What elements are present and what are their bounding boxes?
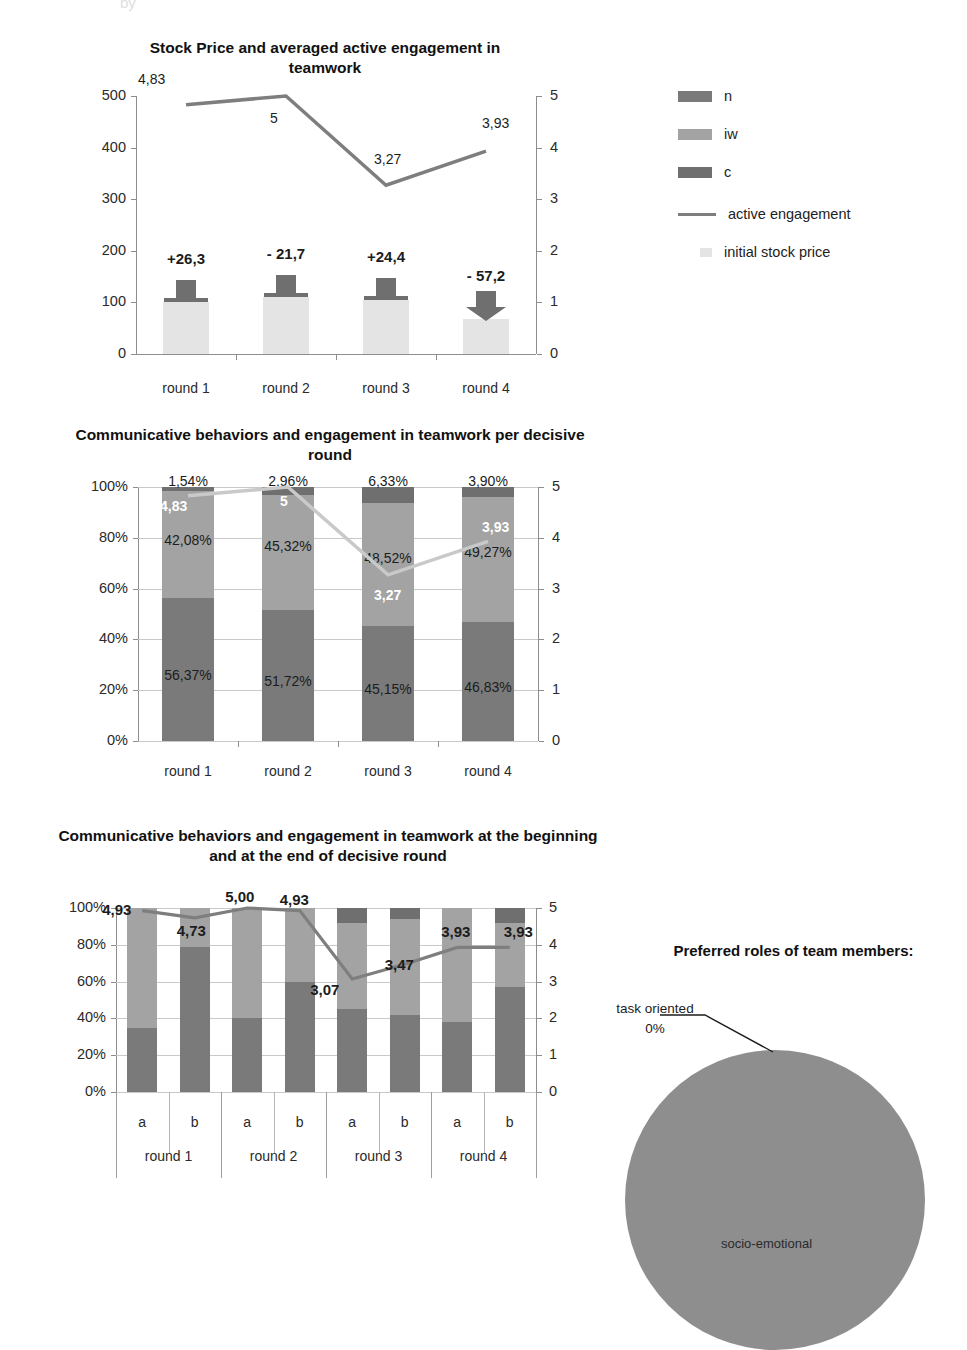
legend-item-label: c [724,164,731,180]
chart3-x-tick-label: b [381,1114,429,1130]
legend-item-label: active engagement [728,206,851,222]
chart1-engagement-label: 3,27 [374,151,401,167]
chart3-y2-tick [537,1055,542,1056]
chart3-y2-tick [537,982,542,983]
chart2-title: Communicative behaviors and engagement i… [60,425,600,465]
chart1-y-tick [131,354,136,355]
chart3-engagement-label: 4,93 [102,901,131,918]
chart1-y-tick-label: 300 [74,191,126,205]
chart1-y-tick-label: 500 [74,88,126,102]
chart3-y-tick-label: 40% [54,1010,106,1024]
legend-item-label: initial stock price [724,244,830,260]
legend-item-label: iw [724,126,738,142]
chart3-group-label: round 1 [114,1148,224,1164]
chart1-y2-tick-label: 1 [550,294,590,308]
chart3-engagement-label: 3,07 [310,981,339,998]
legend-swatch [678,91,712,102]
chart2-y2-tick [539,639,544,640]
chart3-y2-tick-label: 4 [549,937,589,951]
chart3-engagement-label: 3,47 [385,956,414,973]
chart1-y2-tick-label: 0 [550,346,590,360]
chart2-y-tick-label: 100% [74,479,128,493]
chart3-plot-area: 0%20%40%60%80%100%012345ababababround 1r… [116,908,536,1092]
chart1-title: Stock Price and averaged active engageme… [130,38,520,78]
chart1-y2-tick [537,148,542,149]
chart3-engagement-label: 4,93 [280,891,309,908]
chart2-y2-tick-label: 1 [552,682,592,696]
chart3-x-tick-label: b [276,1114,324,1130]
legend-item-label: n [724,88,732,104]
chart1-y2-tick [537,199,542,200]
chart3-y-tick-label: 100% [54,900,106,914]
chart3-x-minor-tick [274,1092,275,1154]
chart3-y-tick-label: 80% [54,937,106,951]
chart1-engagement-label: 5 [270,110,278,126]
chart3-y2-tick [537,1092,542,1093]
chart3-group-label: round 4 [429,1148,539,1164]
chart2-y2-tick-label: 4 [552,530,592,544]
chart1-x-tick [336,354,337,360]
chart3-x-tick-label: a [328,1114,376,1130]
chart1-y2-tick [537,96,542,97]
chart2-engagement-label: 3,27 [374,587,401,603]
chart2-plot-area: 0%20%40%60%80%100%01234556,37%42,08%1,54… [138,487,538,741]
chart2-y-tick-label: 80% [74,530,128,544]
chart3-x-tick-label: b [486,1114,534,1130]
chart3-group-tick [431,1092,432,1178]
legend-item-iw: iw [678,126,738,142]
chart3-y-tick-label: 20% [54,1047,106,1061]
chart1-y2-tick [537,354,542,355]
chart1-engagement-line [136,96,536,354]
top-cut-text: by [120,0,136,11]
chart-comm-behaviors-begin-end: Communicative behaviors and engagement i… [40,826,640,1226]
chart-comm-behaviors-per-round: Communicative behaviors and engagement i… [40,425,640,785]
chart2-x-tick [238,741,239,747]
chart1-y2-tick-label: 2 [550,243,590,257]
pie-leader-line [600,940,967,1245]
chart3-group-label: round 2 [219,1148,329,1164]
chart3-y2-axis [536,908,537,1092]
chart2-x-tick-label: round 4 [428,763,548,779]
chart2-y2-tick [539,741,544,742]
chart1-y2-tick-label: 5 [550,88,590,102]
legend-item-n: n [678,88,732,104]
chart1-engagement-label: 3,93 [482,115,509,131]
chart3-y-tick-label: 60% [54,974,106,988]
chart3-engagement-label: 4,73 [177,922,206,939]
chart3-y2-tick-label: 1 [549,1047,589,1061]
chart1-y-tick-label: 200 [74,243,126,257]
chart3-y-tick-label: 0% [54,1084,106,1098]
chart3-y2-tick-label: 2 [549,1010,589,1024]
chart3-x-minor-tick [169,1092,170,1154]
chart1-y2-axis [536,96,537,354]
legend-line-marker [678,213,716,216]
pie-label-socio-emotional: socio-emotional [721,1236,812,1251]
chart1-y-tick-label: 400 [74,140,126,154]
legend-item-active-engagement: active engagement [678,206,851,222]
chart3-y2-tick [537,908,542,909]
chart2-engagement-label: 3,93 [482,519,509,535]
chart1-y2-tick-label: 4 [550,140,590,154]
chart1-y2-tick [537,302,542,303]
legend-swatch [678,167,712,178]
chart2-y-tick-label: 20% [74,682,128,696]
chart1-y2-tick [537,251,542,252]
chart3-y2-tick [537,945,542,946]
legend-item-c: c [678,164,731,180]
legend-item-initial-stock-price: initial stock price [678,244,830,260]
chart3-y2-tick-label: 5 [549,900,589,914]
chart3-x-tick-label: a [223,1114,271,1130]
chart1-engagement-label: 4,83 [138,71,165,87]
chart3-x-tick-label: b [171,1114,219,1130]
chart2-y2-tick-label: 5 [552,479,592,493]
chart3-y2-tick [537,1018,542,1019]
legend-swatch [700,248,712,257]
chart2-engagement-label: 4,83 [160,498,187,514]
chart2-y-tick-label: 60% [74,581,128,595]
chart3-x-minor-tick [379,1092,380,1154]
chart2-y2-tick [539,690,544,691]
chart3-x-minor-tick [484,1092,485,1154]
chart2-y-tick-label: 0% [74,733,128,747]
legend: niwcactive engagementinitial stock price [678,88,948,268]
